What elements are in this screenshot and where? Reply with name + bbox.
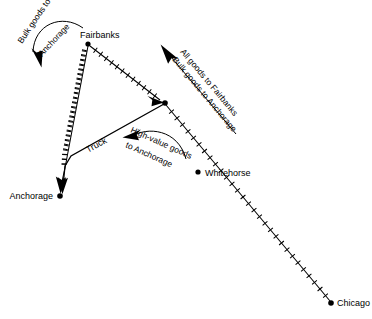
city-node-chicago: Chicago xyxy=(328,298,370,308)
flow-label-bulk-goods-to-line2: Anchorage xyxy=(36,21,72,58)
diagram-canvas: Bulk goods to Anchorage All goods to Fai… xyxy=(0,0,372,319)
city-label-fairbanks: Fairbanks xyxy=(80,30,120,40)
rail-tick-marks-fairbanks-anchorage xyxy=(62,50,87,165)
route-fairbanks-anchorage-rail xyxy=(56,46,88,194)
annotation-bulk-goods-to-anchorage-top: Bulk goods to Anchorage xyxy=(15,0,83,67)
mode-label-truck: Truck xyxy=(84,135,109,155)
rail-tick-marks-junction-chicago xyxy=(169,110,328,298)
junction-node xyxy=(162,100,168,106)
city-label-chicago: Chicago xyxy=(337,298,370,308)
city-label-whitehorse: Whitehorse xyxy=(205,168,251,178)
city-label-anchorage: Anchorage xyxy=(9,191,53,201)
route-fairbanks-junction-rail xyxy=(90,46,164,106)
city-node-anchorage: Anchorage xyxy=(9,191,62,201)
city-node-fairbanks: Fairbanks xyxy=(80,30,120,47)
city-node-whitehorse: Whitehorse xyxy=(195,168,250,178)
annotation-all-goods-fairbanks-bulk-anchorage: All goods to Fairbanks Bulk goods to Anc… xyxy=(161,45,241,135)
annotation-high-value-goods-to-anchorage: High-value goods to Anchorage xyxy=(123,125,194,170)
transport-flow-diagram: Bulk goods to Anchorage All goods to Fai… xyxy=(0,0,372,319)
flow-label-bulk-goods-to-line1: Bulk goods to xyxy=(15,0,52,45)
route-junction-whitehorse-chicago-rail xyxy=(166,105,330,301)
